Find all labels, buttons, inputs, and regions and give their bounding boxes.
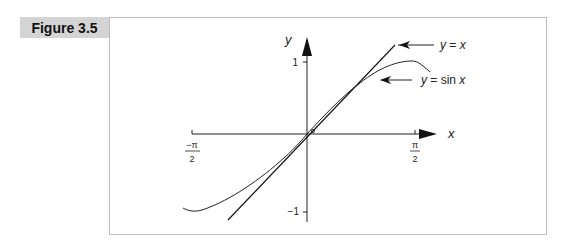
y-axis-label: y [284,32,293,47]
x-tick-label-neg-den: 2 [189,154,194,164]
annotation-y-equals-sin-x: y = sin x [380,73,466,87]
x-tick-label-neg-num: −π [186,140,197,150]
sine-vs-line-plot: 1 −1 −π 2 π 2 x y y = x y = sin x [0,0,569,240]
x-axis-label: x [447,126,455,141]
y-axis-arrow-icon [302,37,312,56]
x-tick-label-pos-den: 2 [412,154,417,164]
annotation-y-equals-x: y = x [398,38,467,52]
x-axis-arrow-icon [419,129,437,139]
annotation-label-y-equals-sin-x: y = sin x [420,73,466,87]
annotation-label-y-equals-x: y = x [439,38,467,52]
x-tick-label-pos-num: π [412,140,418,150]
line-y-equals-x [228,45,395,220]
y-tick-label-pos: 1 [292,57,298,68]
y-tick-label-neg: −1 [288,206,300,217]
